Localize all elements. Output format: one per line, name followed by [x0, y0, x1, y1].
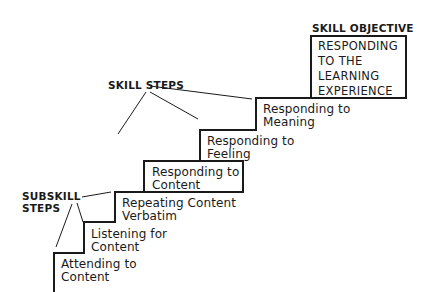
- skill-objective-heading: SKILL OBJECTIVE: [312, 22, 414, 34]
- step-responding-to-meaning: Responding to Meaning: [263, 103, 350, 129]
- step-listening-for-content: Listening for Content: [91, 228, 167, 254]
- subskill-steps-heading: SUBSKILL STEPS: [22, 190, 81, 214]
- step-attending-to-content: Attending to Content: [61, 258, 137, 284]
- step-responding-to-content: Responding to Content: [152, 166, 239, 192]
- skill-objective-text: RESPONDING TO THE LEARNING EXPERIENCE: [318, 39, 398, 99]
- step-repeating-content-verbatim: Repeating Content Verbatim: [122, 197, 236, 223]
- step-responding-to-feeling: Responding to Feeling: [207, 135, 294, 161]
- skill-steps-heading: SKILL STEPS: [108, 79, 184, 91]
